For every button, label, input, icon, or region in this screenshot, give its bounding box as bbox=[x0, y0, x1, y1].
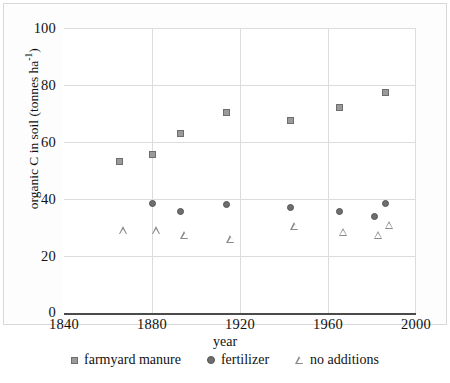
data-point-circle bbox=[371, 213, 378, 220]
y-tick-label-20: 20 bbox=[8, 248, 56, 265]
plot-area bbox=[64, 28, 416, 313]
legend-item-no-additions[interactable]: no additions bbox=[295, 352, 379, 368]
gridline-x-1880 bbox=[152, 28, 153, 313]
gridline-x-1960 bbox=[328, 28, 329, 313]
data-point-circle bbox=[149, 200, 156, 207]
data-point-circle bbox=[336, 208, 343, 215]
y-axis-title-exponent: -1 bbox=[24, 53, 34, 61]
data-point-circle bbox=[223, 201, 230, 208]
data-point-triangle bbox=[181, 231, 189, 239]
data-point-triangle bbox=[339, 228, 347, 236]
data-point-circle bbox=[287, 204, 294, 211]
legend-label: no additions bbox=[310, 352, 379, 368]
x-tick-label-1880: 1880 bbox=[122, 316, 182, 333]
x-tick-label-1960: 1960 bbox=[298, 316, 358, 333]
square-marker-icon bbox=[71, 357, 78, 364]
triangle-marker-icon bbox=[295, 356, 304, 364]
legend-label: farmyard manure bbox=[84, 352, 181, 368]
data-point-triangle bbox=[374, 231, 382, 239]
chart-legend: farmyard manure fertilizer no additions bbox=[0, 352, 450, 368]
legend-item-farmyard-manure[interactable]: farmyard manure bbox=[71, 352, 181, 368]
data-point-square bbox=[177, 130, 184, 137]
data-point-triangle bbox=[227, 235, 235, 243]
y-tick-label-40: 40 bbox=[8, 191, 56, 208]
data-point-triangle bbox=[385, 221, 393, 229]
data-point-triangle bbox=[291, 222, 299, 230]
y-tick-label-100: 100 bbox=[8, 20, 56, 37]
data-point-square bbox=[149, 151, 156, 158]
x-tick-label-2000: 2000 bbox=[386, 316, 446, 333]
data-point-circle bbox=[177, 208, 184, 215]
circle-marker-icon bbox=[207, 356, 215, 364]
x-axis-line bbox=[64, 313, 416, 315]
x-tick-label-1920: 1920 bbox=[210, 316, 270, 333]
x-axis-title: year bbox=[0, 334, 450, 350]
data-point-triangle bbox=[152, 226, 160, 234]
gridline-x-1920 bbox=[240, 28, 241, 313]
data-point-square bbox=[287, 117, 294, 124]
data-point-square bbox=[116, 158, 123, 165]
legend-item-fertilizer[interactable]: fertilizer bbox=[207, 352, 269, 368]
legend-label: fertilizer bbox=[221, 352, 269, 368]
chart-figure: organic C in soil (tonnes ha-1) 100 80 6… bbox=[0, 0, 450, 383]
data-point-triangle bbox=[119, 226, 127, 234]
gridline-x-2000 bbox=[415, 28, 416, 313]
y-tick-label-60: 60 bbox=[8, 134, 56, 151]
y-tick-label-80: 80 bbox=[8, 77, 56, 94]
data-point-circle bbox=[382, 200, 389, 207]
data-point-square bbox=[223, 109, 230, 116]
data-point-square bbox=[336, 104, 343, 111]
x-tick-label-1840: 1840 bbox=[34, 316, 94, 333]
y-axis-title-close: ) bbox=[26, 48, 41, 53]
data-point-square bbox=[382, 89, 389, 96]
